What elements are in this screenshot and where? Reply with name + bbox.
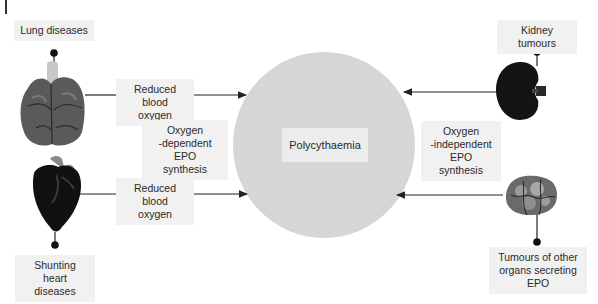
polycythaemia-text: Polycythaemia bbox=[289, 139, 361, 151]
polycythaemia-label: Polycythaemia bbox=[282, 128, 368, 162]
lungs-icon bbox=[16, 58, 88, 150]
reduced-blood-oxygen-label-top: Reduced blood oxygen bbox=[116, 79, 194, 126]
edge2-line2: oxygen bbox=[122, 208, 188, 221]
edge2-line1: Reduced blood bbox=[122, 182, 188, 208]
tumour-icon bbox=[503, 175, 559, 217]
lung-diseases-text: Lung diseases bbox=[20, 24, 88, 36]
lung-diseases-label: Lung diseases bbox=[14, 20, 94, 41]
left-mech-line2: -dependent EPO bbox=[148, 137, 222, 163]
heart-label-line2: diseases bbox=[21, 285, 89, 298]
other-label-line1: Tumours of other bbox=[495, 251, 581, 264]
kidney-tumours-text: Kidney tumours bbox=[518, 24, 556, 49]
right-mech-line2: -independent bbox=[427, 138, 495, 151]
oxygen-independent-epo-label: Oxygen -independent EPO synthesis bbox=[421, 121, 501, 181]
right-mech-line3: EPO synthesis bbox=[427, 151, 495, 177]
other-label-line2: organs secreting bbox=[495, 264, 581, 277]
oxygen-dependent-epo-label: Oxygen -dependent EPO synthesis bbox=[142, 120, 228, 180]
kidney-icon bbox=[494, 60, 550, 122]
right-mech-line1: Oxygen bbox=[427, 125, 495, 138]
left-mech-line3: synthesis bbox=[148, 163, 222, 176]
left-mech-line1: Oxygen bbox=[148, 124, 222, 137]
shunting-heart-diseases-label: Shunting heart diseases bbox=[15, 255, 95, 302]
tumours-other-organs-label: Tumours of other organs secreting EPO bbox=[489, 247, 587, 294]
reduced-blood-oxygen-label-bottom: Reduced blood oxygen bbox=[116, 178, 194, 225]
other-label-line3: EPO bbox=[495, 277, 581, 290]
heart-icon bbox=[28, 155, 84, 233]
edge1-line1: Reduced blood bbox=[122, 83, 188, 109]
heart-label-line1: Shunting heart bbox=[21, 259, 89, 285]
kidney-tumours-label: Kidney tumours bbox=[497, 20, 577, 54]
